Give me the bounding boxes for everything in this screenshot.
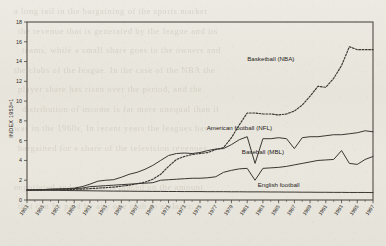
y-tick-label: 6 xyxy=(19,138,22,144)
x-tick-label: 1991 xyxy=(317,204,329,217)
series-label-english-football: English football xyxy=(258,181,300,188)
series-layer xyxy=(27,47,373,193)
series-label-basketball-nba: Basketball (NBA) xyxy=(247,55,294,62)
series-label-baseball-mbl: Baseball (MBL) xyxy=(242,148,284,155)
x-tick-label: 1997 xyxy=(364,204,376,217)
y-tick-label: 0 xyxy=(19,197,22,203)
y-axis-title: INDEX 1953=1 xyxy=(8,98,14,137)
y-tick-label: 4 xyxy=(19,157,22,163)
x-tick-label: 1983 xyxy=(254,204,266,217)
plot-frame xyxy=(27,22,373,200)
x-axis: 1953195519571959196119631965196719691971… xyxy=(18,200,376,216)
x-tick-label: 1967 xyxy=(128,204,140,217)
x-tick-label: 1979 xyxy=(222,204,234,217)
x-tick-label: 1977 xyxy=(207,204,219,217)
x-tick-label: 1987 xyxy=(285,204,297,217)
series-line-baseball-mbl xyxy=(27,151,373,191)
x-tick-label: 1957 xyxy=(49,204,61,217)
x-tick-label: 1975 xyxy=(191,204,203,217)
x-tick-label: 1981 xyxy=(238,204,250,217)
series-annotations: Basketball (NBA)American football (NFL)B… xyxy=(207,55,300,188)
series-line-english-football xyxy=(27,190,373,192)
x-tick-label: 1985 xyxy=(270,204,282,217)
x-tick-label: 1989 xyxy=(301,204,313,217)
y-axis: 024681012141618 xyxy=(16,19,27,203)
y-tick-label: 14 xyxy=(16,58,22,64)
line-chart-svg: 024681012141618 195319551957195919611963… xyxy=(0,0,386,246)
x-tick-label: 1955 xyxy=(34,204,46,217)
x-tick-label: 1965 xyxy=(112,204,124,217)
x-tick-label: 1995 xyxy=(348,204,360,217)
chart-figure: 024681012141618 195319551957195919611963… xyxy=(0,0,386,246)
x-tick-label: 1953 xyxy=(18,204,30,217)
series-label-american-football-nfl: American football (NFL) xyxy=(207,124,272,131)
x-tick-label: 1971 xyxy=(160,204,172,217)
y-tick-label: 16 xyxy=(16,39,22,45)
series-line-basketball-nba xyxy=(27,47,373,190)
x-tick-label: 1961 xyxy=(81,204,93,217)
y-tick-label: 12 xyxy=(16,78,22,84)
y-tick-label: 8 xyxy=(19,118,22,124)
x-tick-label: 1993 xyxy=(333,204,345,217)
y-tick-label: 10 xyxy=(16,98,22,104)
y-tick-label: 2 xyxy=(19,177,22,183)
x-tick-label: 1959 xyxy=(65,204,77,217)
y-tick-label: 18 xyxy=(16,19,22,25)
x-tick-label: 1969 xyxy=(144,204,156,217)
x-tick-label: 1973 xyxy=(175,204,187,217)
x-tick-label: 1963 xyxy=(97,204,109,217)
